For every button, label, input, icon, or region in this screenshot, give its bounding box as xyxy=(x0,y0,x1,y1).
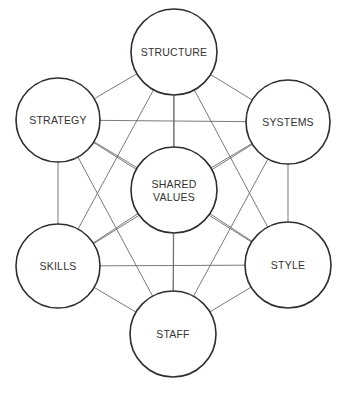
node-label: VALUES xyxy=(153,191,195,203)
node-structure: STRUCTURE xyxy=(131,9,217,95)
node-label: STRATEGY xyxy=(29,114,86,126)
node-skills: SKILLS xyxy=(16,224,100,308)
node-label: SYSTEMS xyxy=(262,116,314,128)
node-strategy: STRATEGY xyxy=(16,78,100,162)
node-systems: SYSTEMS xyxy=(246,80,330,164)
node-label: STRUCTURE xyxy=(141,46,208,58)
node-label: STAFF xyxy=(156,328,189,340)
node-label: SHARED xyxy=(152,178,197,190)
node-staff: STAFF xyxy=(130,291,216,377)
node-style: STYLE xyxy=(245,222,331,308)
node-label: STYLE xyxy=(271,259,305,271)
seven-s-diagram: STRUCTURESTRATEGYSYSTEMSSHAREDVALUESSKIL… xyxy=(0,0,346,393)
framework-nodes: STRUCTURESTRATEGYSYSTEMSSHAREDVALUESSKIL… xyxy=(16,9,331,377)
node-shared-values: SHAREDVALUES xyxy=(131,147,217,233)
node-label: SKILLS xyxy=(40,260,77,272)
